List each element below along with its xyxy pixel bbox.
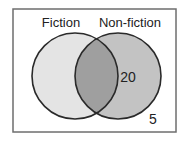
- nonfiction-only-value: 20: [120, 69, 136, 85]
- nonfiction-label: Non-fiction: [99, 15, 161, 30]
- fiction-label: Fiction: [42, 15, 80, 30]
- venn-diagram: Fiction Non-fiction 20 5: [0, 0, 181, 142]
- outside-value: 5: [149, 111, 157, 127]
